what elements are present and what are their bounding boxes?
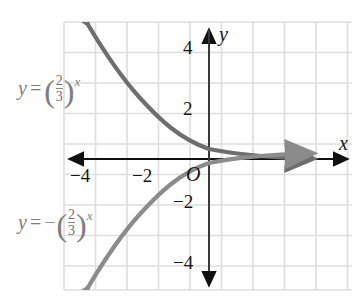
equation-2-numerator: 2	[68, 207, 75, 222]
y-tick-label-neg4: −4	[173, 253, 193, 272]
x-axis-label: x	[339, 133, 348, 153]
grid-background	[64, 22, 352, 290]
x-tick-label-neg2: −2	[132, 166, 152, 185]
equation-1-numerator: 2	[56, 73, 63, 88]
graph-figure: y=(23)x y=−(23)x 4 2 −2 −4 −4 −2 O y x	[0, 0, 363, 306]
equation-label-negative: y=−(23)x	[18, 207, 93, 241]
origin-label: O	[186, 164, 200, 184]
y-axis-label: y	[219, 24, 228, 44]
equation-1-open-paren: (	[44, 73, 55, 109]
x-tick-label-neg4: −4	[70, 166, 90, 185]
equation-2-denominator: 3	[68, 222, 75, 238]
y-tick-label-4: 4	[183, 38, 193, 57]
equation-1-exponent: x	[74, 74, 80, 89]
equation-1-fraction: 23	[55, 73, 64, 104]
equation-label-positive: y=(23)x	[18, 73, 80, 107]
equation-2-sign: −	[44, 211, 56, 233]
equation-1-denominator: 3	[56, 88, 63, 104]
equation-2-close-paren: )	[76, 207, 87, 243]
equation-2-fraction: 23	[67, 207, 76, 238]
y-tick-label-2: 2	[183, 99, 193, 118]
equation-1-lhs: y	[18, 77, 27, 99]
equation-1-close-paren: )	[64, 73, 75, 109]
equation-2-equals: =	[27, 211, 44, 233]
equation-2-exponent: x	[87, 208, 93, 223]
equation-1-equals: =	[27, 77, 44, 99]
equation-2-lhs: y	[18, 211, 27, 233]
y-tick-label-neg2: −2	[173, 192, 193, 211]
equation-2-open-paren: (	[56, 207, 67, 243]
